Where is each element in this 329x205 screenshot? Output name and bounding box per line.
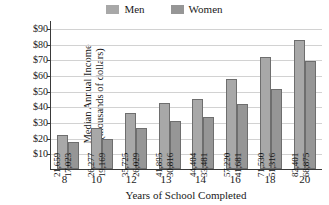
y-axis-tick-label: $30 [22, 118, 48, 128]
bar-group: 41,89530,816 [159, 21, 181, 169]
x-axis-tick-label: 14 [195, 174, 206, 185]
chart-figure: Men Women Median Annual Income (thousand… [0, 0, 329, 205]
y-axis-tick-label: $80 [22, 40, 48, 50]
plot-area: 21,65917,02326,27719,16935,72526,02941,8… [50, 21, 322, 170]
chart-legend: Men Women [0, 1, 329, 17]
legend-label-women: Women [189, 4, 223, 15]
x-axis-tick-label: 18 [264, 174, 275, 185]
bar-group: 35,72526,029 [125, 21, 147, 169]
bar-women: 30,816 [170, 121, 181, 169]
x-axis-tick-label: 10 [91, 174, 102, 185]
y-axis-tick-label: $70 [22, 55, 48, 65]
x-axis-tick-label: 8 [62, 174, 68, 185]
x-axis-title: Years of School Completed [50, 189, 322, 201]
y-axis-tick-label: $10 [22, 149, 48, 159]
y-axis-tick-label: $20 [22, 134, 48, 144]
x-axis-tick-group: 12 [126, 174, 137, 188]
bar-women: 51,316 [271, 89, 282, 169]
x-axis-tick-group: 10 [91, 174, 102, 188]
legend-entry-women: Women [171, 4, 223, 15]
x-axis-tick-label: 12 [126, 174, 137, 185]
bar-women: 26,029 [136, 128, 147, 169]
bar-women: 68,875 [305, 61, 316, 169]
legend-label-men: Men [124, 4, 144, 15]
y-axis-tick-label: $60 [22, 71, 48, 81]
bar-women: 41,681 [237, 104, 248, 169]
x-axis-tick-label: 13 [160, 174, 171, 185]
bar-men: 82,401 [294, 40, 305, 169]
x-axis-tick-label: 20 [299, 174, 310, 185]
legend-entry-men: Men [106, 4, 144, 15]
bar-group: 44,40433,481 [192, 21, 214, 169]
legend-swatch-men [106, 5, 119, 14]
y-axis-tick-label: $40 [22, 102, 48, 112]
y-axis-tick-label: $90 [22, 24, 48, 34]
x-axis-tick-labels: 810121314161820 [50, 174, 322, 188]
bar-group: 82,40168,875 [294, 21, 316, 169]
x-axis-tick-group: 8 [62, 174, 68, 188]
bar-group: 26,27719,169 [91, 21, 113, 169]
y-axis-tick-labels: $10$20$30$40$50$60$70$80$90 [22, 0, 48, 205]
bar-series-container: 21,65917,02326,27719,16935,72526,02941,8… [51, 21, 322, 169]
bar-group: 57,22041,681 [226, 21, 248, 169]
bar-women: 33,481 [203, 117, 214, 170]
x-axis-tick-group: 14 [195, 174, 206, 188]
x-axis-tick-group: 16 [230, 174, 241, 188]
x-axis-tick-group: 13 [160, 174, 171, 188]
legend-swatch-women [171, 5, 184, 14]
bar-group: 21,65917,023 [57, 21, 79, 169]
x-axis-tick-group: 20 [299, 174, 310, 188]
x-axis-tick-group: 18 [264, 174, 275, 188]
bar-women: 17,023 [68, 142, 79, 169]
y-axis-tick-label: $50 [22, 87, 48, 97]
bar-group: 71,53051,316 [260, 21, 282, 169]
x-axis-tick-label: 16 [230, 174, 241, 185]
bar-women: 19,169 [102, 139, 113, 169]
